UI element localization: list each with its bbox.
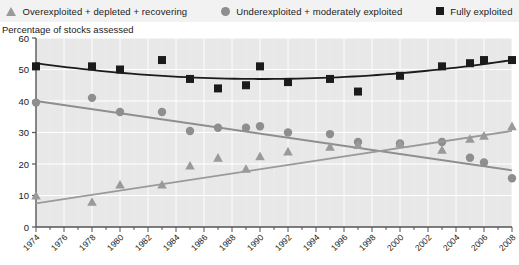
- x-axis-tick-label: 1998: [357, 232, 378, 253]
- data-point-fully[interactable]: [214, 84, 222, 92]
- data-point-underexploited[interactable]: [32, 98, 40, 106]
- x-axis-tick-label: 1988: [217, 232, 238, 253]
- legend-item-fully[interactable]: Fully exploited: [436, 6, 512, 17]
- plot-area: 0102030405060197419761978198019821984198…: [0, 33, 519, 265]
- data-point-fully[interactable]: [88, 62, 96, 70]
- x-axis-tick-label: 2000: [385, 232, 406, 253]
- square-marker-icon: [436, 7, 444, 15]
- x-axis-tick-label: 1996: [329, 232, 350, 253]
- chart-legend: Overexploited + depleted + recovering Un…: [0, 0, 519, 22]
- data-point-fully[interactable]: [508, 56, 516, 64]
- data-point-fully[interactable]: [480, 56, 488, 64]
- y-axis-tick-label: 30: [18, 127, 29, 138]
- x-axis-tick-label: 1982: [133, 232, 154, 253]
- x-axis-tick-label: 2002: [413, 232, 434, 253]
- x-axis-tick-label: 1990: [245, 232, 266, 253]
- data-point-underexploited[interactable]: [326, 130, 334, 138]
- data-point-underexploited[interactable]: [186, 127, 194, 135]
- data-point-fully[interactable]: [186, 75, 194, 83]
- legend-label-underexploited: Underexploited + moderately exploited: [236, 6, 402, 17]
- legend-item-overexploited[interactable]: Overexploited + depleted + recovering: [6, 6, 187, 17]
- data-point-fully[interactable]: [256, 62, 264, 70]
- data-point-fully[interactable]: [354, 88, 362, 96]
- x-axis-tick-label: 2006: [469, 232, 490, 253]
- data-point-underexploited[interactable]: [466, 154, 474, 162]
- data-point-fully[interactable]: [32, 62, 40, 70]
- legend-item-underexploited[interactable]: Underexploited + moderately exploited: [221, 6, 402, 17]
- chart-root: Overexploited + depleted + recovering Un…: [0, 0, 519, 265]
- data-point-fully[interactable]: [396, 72, 404, 80]
- x-axis-tick-label: 2004: [441, 232, 462, 253]
- y-axis-tick-label: 10: [18, 190, 29, 201]
- data-point-underexploited[interactable]: [480, 158, 488, 166]
- y-axis-tick-label: 40: [18, 96, 29, 107]
- data-point-fully[interactable]: [158, 56, 166, 64]
- x-axis-tick-label: 1978: [77, 232, 98, 253]
- x-axis-tick-label: 1992: [273, 232, 294, 253]
- chart-canvas: 0102030405060197419761978198019821984198…: [0, 33, 519, 265]
- y-axis-tick-label: 0: [24, 222, 29, 233]
- data-point-underexploited[interactable]: [88, 94, 96, 102]
- data-point-fully[interactable]: [242, 81, 250, 89]
- data-point-underexploited[interactable]: [242, 124, 250, 132]
- data-point-fully[interactable]: [116, 66, 124, 74]
- x-axis-tick-label: 1974: [21, 232, 42, 253]
- data-point-fully[interactable]: [326, 75, 334, 83]
- y-axis-tick-label: 60: [18, 33, 29, 44]
- triangle-marker-icon: [6, 7, 16, 16]
- data-point-underexploited[interactable]: [284, 128, 292, 136]
- data-point-fully[interactable]: [438, 62, 446, 70]
- data-point-underexploited[interactable]: [508, 174, 516, 182]
- x-axis-tick-label: 1976: [49, 232, 70, 253]
- legend-label-fully: Fully exploited: [450, 6, 512, 17]
- y-axis-tick-label: 50: [18, 64, 29, 75]
- data-point-underexploited[interactable]: [256, 122, 264, 130]
- x-axis-tick-label: 1984: [161, 232, 182, 253]
- circle-marker-icon: [221, 7, 230, 16]
- y-axis-tick-label: 20: [18, 159, 29, 170]
- x-axis-tick-label: 1994: [301, 232, 322, 253]
- legend-label-overexploited: Overexploited + depleted + recovering: [22, 6, 187, 17]
- x-axis-tick-label: 1986: [189, 232, 210, 253]
- data-point-underexploited[interactable]: [116, 108, 124, 116]
- data-point-underexploited[interactable]: [158, 108, 166, 116]
- data-point-underexploited[interactable]: [214, 124, 222, 132]
- x-axis-tick-label: 1980: [105, 232, 126, 253]
- data-point-fully[interactable]: [466, 59, 474, 67]
- data-point-fully[interactable]: [284, 78, 292, 86]
- x-axis-tick-label: 2008: [497, 232, 518, 253]
